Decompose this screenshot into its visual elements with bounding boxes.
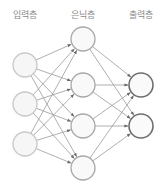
hidden-node-2 bbox=[71, 73, 95, 97]
edge-arrow bbox=[33, 94, 73, 135]
edge-arrow bbox=[33, 49, 74, 95]
edge-arrow bbox=[93, 93, 131, 120]
neural-network-diagram: 입력층 은닉층 출력층 bbox=[0, 0, 168, 194]
hidden-node-4 bbox=[71, 156, 95, 180]
edge-arrow bbox=[36, 130, 70, 141]
input-node-2 bbox=[13, 92, 37, 116]
edges bbox=[31, 44, 134, 163]
edge-arrow bbox=[93, 134, 131, 161]
input-node-3 bbox=[13, 132, 37, 156]
edge-arrow bbox=[31, 75, 77, 156]
input-node-1 bbox=[13, 53, 37, 77]
hidden-node-1 bbox=[71, 27, 95, 51]
edge-arrow bbox=[93, 92, 131, 119]
output-node-2 bbox=[129, 114, 153, 138]
edge-arrow bbox=[33, 113, 74, 158]
network-graph bbox=[0, 0, 168, 194]
nodes bbox=[13, 27, 153, 180]
hidden-node-3 bbox=[71, 114, 95, 138]
output-node-1 bbox=[129, 73, 153, 97]
edge-arrow bbox=[36, 149, 71, 163]
